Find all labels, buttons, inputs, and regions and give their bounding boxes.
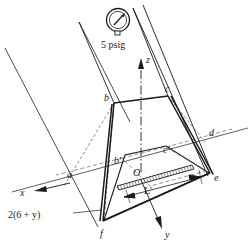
axis-z-label: z [145, 54, 150, 65]
origin-plane-extension-right [166, 129, 232, 147]
vertex-label-d: d [209, 127, 215, 138]
width-expression-label: 2(6 + y) [8, 209, 40, 221]
guide-line-outer-right [143, 5, 213, 175]
dimension-arrow-left [124, 193, 135, 198]
dimension-label-L-prime: L' [144, 185, 152, 196]
edge-b-f [103, 103, 114, 221]
axis-x-group: x [19, 183, 70, 198]
width-leader-line [73, 210, 101, 213]
pressure-gauge-icon: 5 psig [101, 9, 130, 51]
axis-y-arrowhead [155, 216, 162, 229]
vertex-label-c: c [165, 83, 170, 94]
origin-plane-extension-left [56, 158, 122, 175]
edge-f-e [103, 173, 210, 221]
axis-z-arrowhead [138, 58, 144, 69]
edge-b-f-thickness [100, 104, 112, 221]
vertex-label-b-prime: b' [114, 155, 122, 166]
width-leader: 2(6 + y) [8, 209, 101, 221]
edge-c-e [168, 96, 210, 173]
vertex-label-a: a [67, 169, 72, 180]
vertex-label-e: e [214, 172, 219, 183]
vertex-label-b: b [104, 92, 109, 103]
vertex-label-f: f [100, 228, 104, 239]
gauge-stem [115, 31, 120, 35]
axis-z-group: z [138, 54, 150, 172]
guide-line-outer-left [5, 48, 98, 227]
axis-x-arrowhead [34, 186, 47, 192]
tank-diagram-svg: z x y L' [0, 0, 251, 247]
axis-x-label: x [19, 187, 25, 198]
vertex-labels: a b c d e f b' c' O [67, 83, 219, 239]
differential-strip-shape [117, 165, 194, 190]
axis-x-line [44, 183, 70, 189]
origin-label: O [133, 167, 140, 178]
figure-container: z x y L' [0, 0, 251, 247]
guide-line-inner-left [79, 22, 130, 122]
gauge-reading-label: 5 psig [101, 39, 125, 50]
differential-strip [117, 165, 194, 190]
axis-y-label: y [164, 229, 170, 240]
vertex-label-c-prime: c' [163, 144, 170, 155]
rim-extension-left [79, 22, 114, 103]
hidden-edge-c-d [168, 96, 205, 142]
